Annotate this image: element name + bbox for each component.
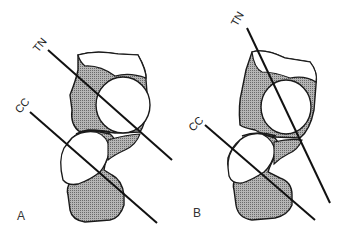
- panel-label-b: B: [193, 206, 201, 220]
- talar-head-b: [261, 80, 311, 134]
- tn-label-b: TN: [228, 9, 246, 28]
- cc-label-b: CC: [186, 114, 206, 134]
- panel-label-a: A: [17, 209, 25, 223]
- cc-label-a: CC: [12, 95, 31, 115]
- tn-label-a: TN: [30, 35, 49, 54]
- talar-head-a: [96, 77, 150, 133]
- diagram-canvas: TN CC A TN CC B: [0, 0, 346, 232]
- panel-a: TN CC A: [12, 35, 172, 223]
- panel-b: TN CC B: [186, 9, 330, 220]
- foot-bone-diagram: TN CC A TN CC B: [0, 0, 346, 232]
